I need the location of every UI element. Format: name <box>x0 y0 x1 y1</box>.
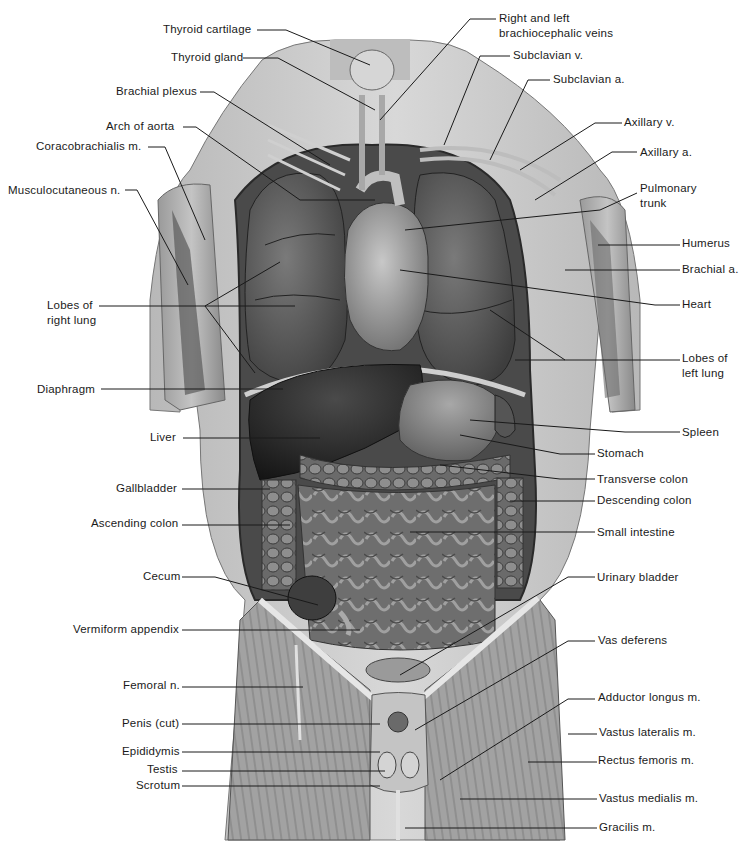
label-urinary-bladder: Urinary bladder <box>597 570 679 585</box>
label-vastus-medialis: Vastus medialis m. <box>599 791 698 806</box>
label-liver: Liver <box>150 430 176 445</box>
label-axillary-a: Axillary a. <box>640 145 692 160</box>
label-vermiform-appendix: Vermiform appendix <box>73 622 179 637</box>
label-ascending-colon: Ascending colon <box>91 516 178 531</box>
label-scrotum: Scrotum <box>136 778 180 793</box>
label-humerus: Humerus <box>682 236 730 251</box>
label-spleen: Spleen <box>682 425 719 440</box>
anatomy-figure: Thyroid cartilage Thyroid gland Brachial… <box>0 0 749 860</box>
label-diaphragm: Diaphragm <box>37 382 95 397</box>
label-rectus-femoris: Rectus femoris m. <box>598 753 694 768</box>
label-thyroid-cartilage: Thyroid cartilage <box>163 22 251 37</box>
label-stomach: Stomach <box>597 446 644 461</box>
label-gallbladder: Gallbladder <box>116 481 177 496</box>
label-epididymis: Epididymis <box>122 744 180 759</box>
label-brachial-plexus: Brachial plexus <box>116 84 197 99</box>
label-testis: Testis <box>147 762 178 777</box>
label-thyroid-gland: Thyroid gland <box>171 50 243 65</box>
label-brachial-a: Brachial a. <box>682 262 739 277</box>
label-lobes-right-lung: Lobes of right lung <box>47 298 96 328</box>
label-vas-deferens: Vas deferens <box>598 633 667 648</box>
label-femoral-n: Femoral n. <box>123 678 180 693</box>
label-musculocutaneous: Musculocutaneous n. <box>8 183 120 198</box>
label-pulmonary-trunk: Pulmonary trunk <box>640 181 697 211</box>
label-descending-colon: Descending colon <box>597 493 692 508</box>
label-subclavian-v: Subclavian v. <box>513 48 583 63</box>
label-heart: Heart <box>682 297 711 312</box>
label-gracilis: Gracilis m. <box>599 820 656 835</box>
label-axillary-v: Axillary v. <box>624 115 675 130</box>
label-transverse-colon: Transverse colon <box>597 472 688 487</box>
label-brachiocephalic-veins: Right and left brachiocephalic veins <box>499 11 613 41</box>
label-vastus-lateralis: Vastus lateralis m. <box>599 725 696 740</box>
label-lobes-left-lung: Lobes of left lung <box>682 351 728 381</box>
label-subclavian-a: Subclavian a. <box>553 72 625 87</box>
label-arch-of-aorta: Arch of aorta <box>106 119 174 134</box>
label-cecum: Cecum <box>143 569 180 584</box>
label-adductor-longus: Adductor longus m. <box>598 690 701 705</box>
label-small-intestine: Small intestine <box>597 525 675 540</box>
label-coracobrachialis: Coracobrachialis m. <box>36 139 141 154</box>
label-penis-cut: Penis (cut) <box>122 716 179 731</box>
